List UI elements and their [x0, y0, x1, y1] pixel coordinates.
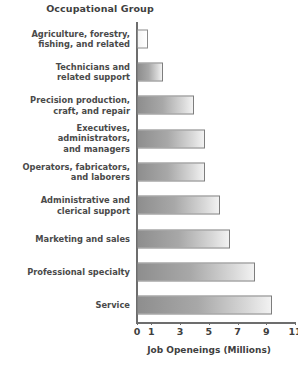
bar [137, 196, 220, 215]
bar-row: Executives, administrators, and managers [0, 122, 298, 155]
bar [137, 29, 148, 48]
bar [137, 162, 205, 181]
category-label: Professional specialty [2, 267, 130, 278]
category-label: Administrative and clerical support [2, 195, 130, 216]
category-label: Operators, fabricators, and laborers [2, 161, 130, 182]
category-label: Executives, administrators, and managers [2, 123, 130, 155]
x-tick-label: 3 [177, 326, 184, 337]
plot-area: Agriculture, forestry, fishing, and rela… [0, 22, 298, 322]
category-label: Agriculture, forestry, fishing, and rela… [2, 28, 130, 49]
x-tick [266, 322, 267, 325]
bar-row: Precision production, craft, and repair [0, 89, 298, 122]
x-tick-label: 5 [206, 326, 213, 337]
bar [137, 262, 255, 281]
x-axis-line [136, 322, 295, 324]
bar [137, 296, 272, 315]
bar-chart: Occupational Group Agriculture, forestry… [0, 0, 298, 366]
category-label: Precision production, craft, and repair [2, 95, 130, 116]
x-tick-label: 9 [263, 326, 270, 337]
category-label: Technicians and related support [2, 61, 130, 82]
bar [137, 129, 205, 148]
chart-title: Occupational Group [0, 3, 200, 14]
bar-row: Technicians and related support [0, 55, 298, 88]
bar [137, 96, 194, 115]
x-tick-label: 1 [148, 326, 155, 337]
bar [137, 62, 163, 81]
x-tick [180, 322, 181, 325]
x-tick-label: 11 [288, 326, 298, 337]
category-label: Service [2, 300, 130, 311]
x-tick [209, 322, 210, 325]
bar-row: Operators, fabricators, and laborers [0, 155, 298, 188]
bar-row: Marketing and sales [0, 222, 298, 255]
x-tick [238, 322, 239, 325]
bar-row: Administrative and clerical support [0, 189, 298, 222]
bar-row: Professional specialty [0, 255, 298, 288]
x-tick [151, 322, 152, 325]
bar-row: Service [0, 289, 298, 322]
x-tick [295, 322, 296, 325]
x-tick-label: 0 [134, 326, 141, 337]
bar-row: Agriculture, forestry, fishing, and rela… [0, 22, 298, 55]
x-tick-label: 7 [234, 326, 241, 337]
x-tick [137, 322, 138, 325]
bar [137, 229, 230, 248]
category-label: Marketing and sales [2, 233, 130, 244]
x-axis-title: Job Openeings (Millions) [120, 345, 298, 355]
